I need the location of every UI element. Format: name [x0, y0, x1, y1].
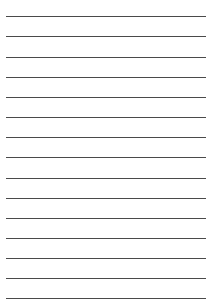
- ruled-line: [6, 218, 206, 219]
- ruled-line: [6, 137, 206, 138]
- ruled-line: [6, 57, 206, 58]
- ruled-line: [6, 77, 206, 78]
- lined-paper-page: [0, 0, 216, 306]
- ruled-line: [6, 258, 206, 259]
- ruled-line: [6, 117, 206, 118]
- ruled-line: [6, 97, 206, 98]
- ruled-line: [6, 198, 206, 199]
- ruled-line: [6, 238, 206, 239]
- ruled-line: [6, 16, 206, 17]
- ruled-line: [6, 36, 206, 37]
- ruled-line: [6, 278, 206, 279]
- ruled-line: [6, 298, 206, 299]
- ruled-line: [6, 157, 206, 158]
- ruled-line: [6, 178, 206, 179]
